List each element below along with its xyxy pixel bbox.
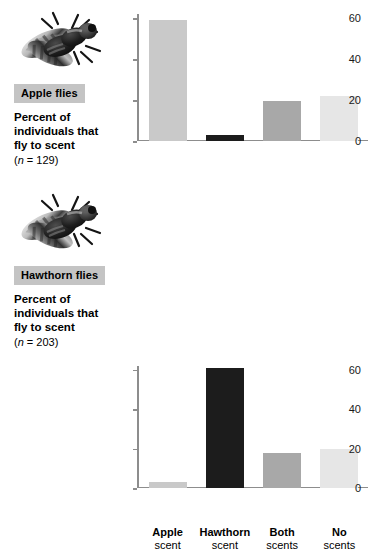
sample-size-hawthorn: (n = 203): [14, 335, 114, 349]
caption-line-1: Percent of: [14, 110, 114, 124]
x-tick-label-apple-scent: Applescent: [139, 526, 196, 552]
bar-slot: [196, 14, 253, 141]
bar-slot: [196, 366, 253, 488]
x-tick-label-line-2: scent: [196, 539, 253, 552]
y-tick-40: [133, 409, 137, 411]
y-tick-label-0: 0: [355, 135, 361, 147]
panel-hawthorn-flies: Hawthorn flies Percent of individuals th…: [0, 184, 380, 368]
bar-slot: [254, 14, 311, 141]
sample-size-value: 203: [36, 336, 54, 348]
species-tag-apple: Apple flies: [14, 84, 85, 103]
caption-line-2: individuals that: [14, 124, 114, 138]
y-tick-60: [133, 18, 137, 20]
bar-slot: [311, 14, 368, 141]
bar-slot: [139, 366, 196, 488]
caption-line-2: individuals that: [14, 306, 114, 320]
bar-slot: [254, 366, 311, 488]
x-tick-label-line-1: Hawthorn: [196, 526, 253, 539]
x-tick-label-line-1: No: [311, 526, 368, 539]
fly-photo-icon-apple: [14, 6, 114, 80]
x-tick-label-line-1: Apple: [139, 526, 196, 539]
y-tick-40: [133, 59, 137, 61]
caption-column-apple: Apple flies Percent of individuals that …: [14, 6, 114, 167]
axis-caption-hawthorn: Percent of individuals that fly to scent…: [14, 292, 114, 349]
axis-caption-apple: Percent of individuals that fly to scent…: [14, 110, 114, 167]
bar-apple-scent: [149, 20, 187, 141]
bar-slot: [139, 14, 196, 141]
sample-size-symbol: n: [18, 154, 24, 166]
sample-size-apple: (n = 129): [14, 153, 114, 167]
bar-hawthorn-scent: [206, 368, 244, 488]
y-tick-20: [133, 449, 137, 451]
x-tick-label-line-2: scents: [311, 539, 368, 552]
bar-group-hawthorn: [139, 366, 368, 488]
y-tick-60: [133, 370, 137, 372]
y-tick-label-60: 60: [349, 12, 361, 24]
x-tick-label-line-1: Both: [254, 526, 311, 539]
hawthorn-flies-chart: ApplescentHawthornscentBothscentsNoscent…: [110, 366, 368, 511]
y-tick-label-40: 40: [349, 53, 361, 65]
x-tick-label-line-2: scent: [139, 539, 196, 552]
y-tick-label-20: 20: [349, 443, 361, 455]
x-tick-labels-hawthorn: ApplescentHawthornscentBothscentsNoscent…: [139, 526, 368, 552]
y-tick-0: [133, 488, 137, 490]
y-tick-20: [133, 100, 137, 102]
bar-apple-scent: [149, 482, 187, 488]
caption-line-1: Percent of: [14, 292, 114, 306]
x-tick-label-hawthorn-scent: Hawthornscent: [196, 526, 253, 552]
caption-column-hawthorn: Hawthorn flies Percent of individuals th…: [14, 188, 114, 349]
y-tick-label-0: 0: [355, 482, 361, 494]
y-tick-0: [133, 141, 137, 143]
sample-size-symbol: n: [18, 336, 24, 348]
caption-line-3: fly to scent: [14, 320, 114, 334]
x-tick-label-both-scents: Bothscents: [254, 526, 311, 552]
bar-both-scents: [263, 453, 301, 488]
y-tick-label-20: 20: [349, 94, 361, 106]
sample-size-value: 129: [36, 154, 54, 166]
bar-hawthorn-scent: [206, 135, 244, 141]
species-tag-hawthorn: Hawthorn flies: [14, 266, 105, 285]
fly-photo-icon-hawthorn: [14, 188, 114, 262]
y-tick-label-60: 60: [349, 364, 361, 376]
bar-both-scents: [263, 101, 301, 141]
x-tick-label-line-2: scents: [254, 539, 311, 552]
plot-area-hawthorn: ApplescentHawthornscentBothscentsNoscent…: [110, 366, 368, 511]
bar-slot: [311, 366, 368, 488]
y-tick-label-40: 40: [349, 403, 361, 415]
bar-group-apple: [139, 14, 368, 141]
plot-area-apple: 0204060: [110, 14, 368, 164]
x-tick-label-no-scents: Noscents: [311, 526, 368, 552]
caption-line-3: fly to scent: [14, 138, 114, 152]
panel-apple-flies: Apple flies Percent of individuals that …: [0, 0, 380, 184]
apple-flies-chart: 0204060: [110, 14, 368, 164]
